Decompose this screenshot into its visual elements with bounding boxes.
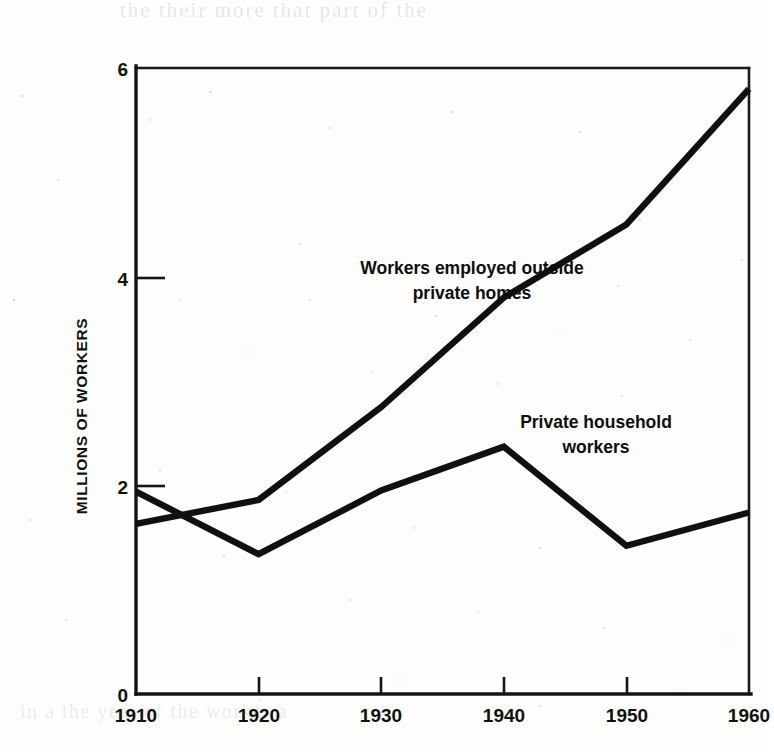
series-label-private-household-line1: Private household <box>520 412 672 432</box>
x-tick-label-1920: 1920 <box>238 705 280 726</box>
series-label-private-household-line2: workers <box>561 437 629 457</box>
series-line-private-household-workers <box>136 447 749 555</box>
series-label-workers-outside-line2: private homes <box>413 283 532 303</box>
x-tick-label-1930: 1930 <box>360 705 402 726</box>
y-tick-label-0: 0 <box>117 685 128 706</box>
y-tick-label-6: 6 <box>117 59 128 80</box>
x-axis-ticks <box>259 677 627 694</box>
y-axis-ticks <box>136 278 165 486</box>
y-tick-label-4: 4 <box>117 269 128 290</box>
chart-canvas: 6 4 2 0 1910 1920 1930 1940 1950 1960 MI… <box>40 16 774 752</box>
x-tick-label-1950: 1950 <box>606 705 648 726</box>
y-tick-label-2: 2 <box>117 477 128 498</box>
series-label-workers-outside-line1: Workers employed outside <box>360 258 584 278</box>
x-tick-label-1940: 1940 <box>483 705 525 726</box>
y-axis-title: MILLIONS OF WORKERS <box>73 318 90 515</box>
x-tick-label-1910: 1910 <box>115 705 157 726</box>
x-tick-label-1960: 1960 <box>728 705 770 726</box>
line-chart: 6 4 2 0 1910 1920 1930 1940 1950 1960 MI… <box>40 16 724 736</box>
series-line-workers-outside-private-homes <box>136 89 749 524</box>
